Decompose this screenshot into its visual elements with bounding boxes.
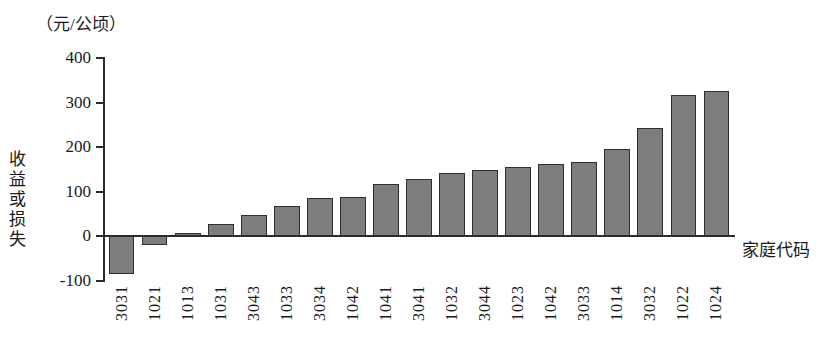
x-tick-labels: 3031102110131031304310333034104210413041… xyxy=(103,285,735,341)
x-tick-label: 1013 xyxy=(180,285,196,321)
bar xyxy=(274,206,300,236)
y-tick xyxy=(96,57,105,59)
y-axis-title-char-4: 损 xyxy=(6,210,28,230)
x-tick-label: 3034 xyxy=(312,285,328,321)
y-axis-title: 收 益 或 损 失 xyxy=(6,150,28,250)
y-tick-label: -100 xyxy=(37,272,91,289)
x-tick-label: 1032 xyxy=(444,285,460,321)
bar xyxy=(307,198,333,236)
bar xyxy=(406,179,432,236)
y-tick xyxy=(96,235,105,237)
bar xyxy=(704,91,730,236)
y-axis-title-char-5: 失 xyxy=(6,230,28,250)
y-unit-label: （元/公顷） xyxy=(36,10,126,35)
x-tick-label: 1042 xyxy=(345,285,361,321)
bar xyxy=(373,184,399,237)
x-tick-label: 1031 xyxy=(213,285,229,321)
bar xyxy=(571,162,597,236)
bar xyxy=(637,128,663,236)
x-axis-title: 家庭代码 xyxy=(742,236,810,261)
x-tick-label: 3041 xyxy=(411,285,427,321)
y-tick-label: 300 xyxy=(37,94,91,111)
y-tick xyxy=(96,191,105,193)
y-tick xyxy=(96,146,105,148)
x-tick-label: 3032 xyxy=(642,285,658,321)
bar xyxy=(241,215,267,236)
y-tick-label: 200 xyxy=(37,138,91,155)
x-tick-label: 1041 xyxy=(378,285,394,321)
bar xyxy=(505,167,531,236)
x-tick-label: 3033 xyxy=(576,285,592,321)
x-tick-label: 1033 xyxy=(279,285,295,321)
bar xyxy=(439,173,465,236)
x-tick-label: 3043 xyxy=(246,285,262,321)
x-tick-label: 1023 xyxy=(510,285,526,321)
y-axis-title-char-1: 收 xyxy=(6,150,28,170)
y-tick-label: 100 xyxy=(37,183,91,200)
bar xyxy=(671,95,697,236)
x-tick-label: 1022 xyxy=(675,285,691,321)
x-tick-label: 1014 xyxy=(609,285,625,321)
y-tick xyxy=(96,280,105,282)
y-axis-title-char-2: 益 xyxy=(6,170,28,190)
x-tick-label: 1021 xyxy=(147,285,163,321)
x-tick-label: 3044 xyxy=(477,285,493,321)
bar xyxy=(538,164,564,236)
bar xyxy=(340,197,366,236)
bar xyxy=(208,224,234,236)
bar xyxy=(472,170,498,236)
x-tick-label: 3031 xyxy=(114,285,130,321)
y-tick-label: 400 xyxy=(37,49,91,66)
bar xyxy=(109,236,135,274)
bar-chart: （元/公顷） 收 益 或 损 失 4003002001000-100 30311… xyxy=(0,0,830,341)
y-tick xyxy=(96,102,105,104)
y-tick-label: 0 xyxy=(37,227,91,244)
plot-area: 4003002001000-100 xyxy=(103,58,733,281)
bar-series xyxy=(105,58,733,281)
y-axis-title-char-3: 或 xyxy=(6,190,28,210)
bar xyxy=(142,236,168,245)
x-tick-label: 1042 xyxy=(543,285,559,321)
x-tick-label: 1024 xyxy=(708,285,724,321)
bar xyxy=(604,149,630,236)
bar xyxy=(175,233,201,236)
